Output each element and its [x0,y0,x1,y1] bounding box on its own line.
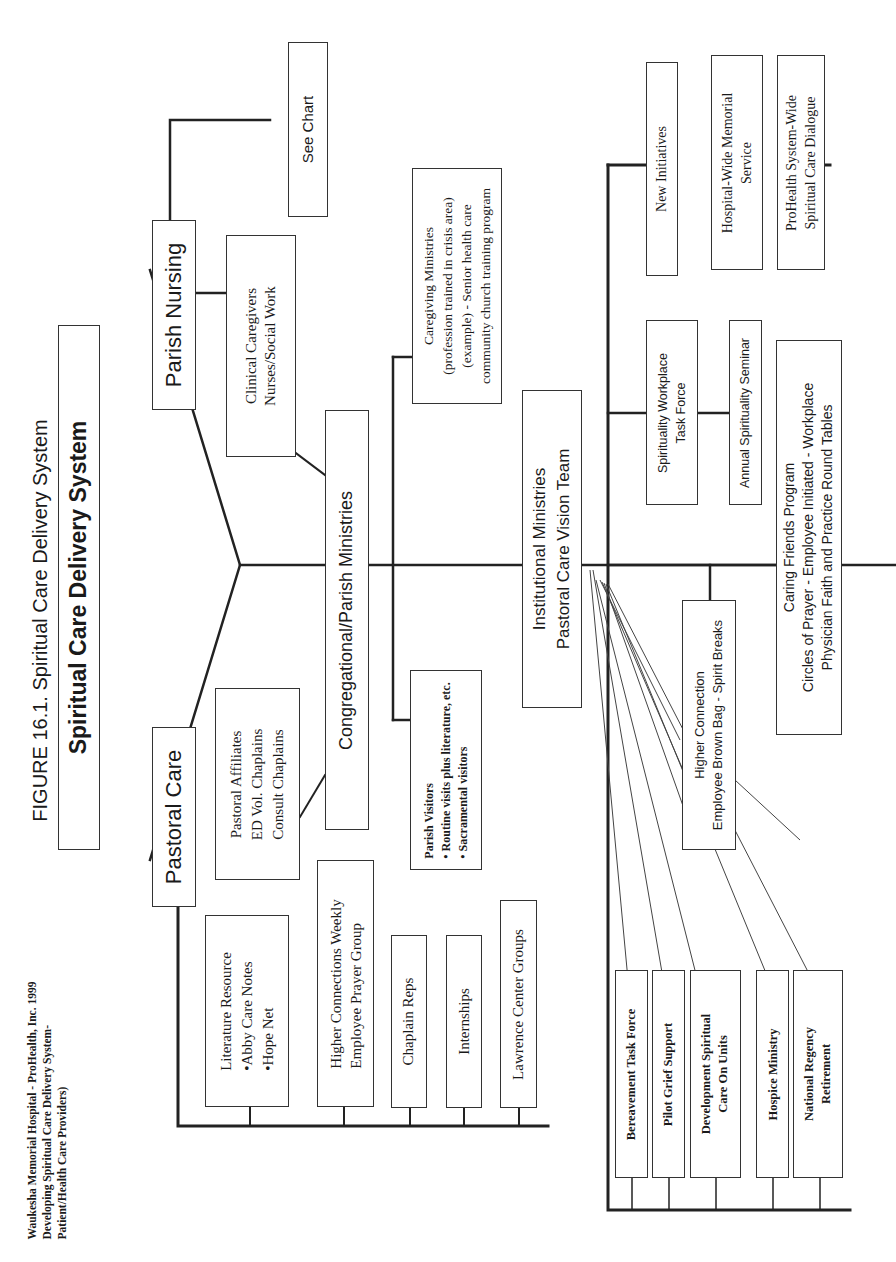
internships-node[interactable]: Internships [446,935,482,1108]
node-text-line: Pastoral Care Vision Team [552,449,576,650]
caring-friends-node[interactable]: Caring Friends Program Circles of Prayer… [776,340,842,735]
chaplain-reps-node[interactable]: Chaplain Reps [391,935,427,1108]
node-text-line: ED Vol. Chaplains [247,728,268,840]
pilot-grief-support-node[interactable]: Pilot Grief Support [652,970,685,1178]
node-text-line: Pilot Grief Support [661,1022,676,1125]
node-text-line: (example) - Senior health care [457,188,476,384]
parish-nursing-node[interactable]: Parish Nursing [152,220,196,410]
node-text-line: ProHealth System-Wide [782,95,801,231]
memorial-service-node[interactable]: Hospital-Wide Memorial Service [711,55,763,270]
node-text-line: Higher Connections Weekly [326,899,346,1068]
node-text-line: Employee Prayer Group [346,899,366,1068]
node-text-line: Development Spiritual [699,1014,716,1134]
annual-seminar-node[interactable]: Annual Spirituality Seminar [729,320,762,505]
root-label: Spiritual Care Delivery System [66,421,93,755]
system-wide-dialogue-node[interactable]: ProHealth System-Wide Spiritual Care Dia… [777,55,825,270]
pastoral-care-node[interactable]: Pastoral Care [152,727,196,907]
node-text-line: Caring Friends Program [781,383,800,692]
node-text-line: National Regency [801,1027,818,1121]
see-chart-label: See Chart [300,96,317,164]
node-text-line: Hospital-Wide Memorial [718,92,737,233]
node-text-line: Task Force [672,353,690,473]
org-chart: FIGURE 16.1. Spiritual Care Delivery Sys… [0,0,896,1262]
lawrence-center-groups-node[interactable]: Lawrence Center Groups [500,900,537,1108]
node-text-line: Literature Resource [216,952,237,1071]
figure-title-text: FIGURE 16.1. Spiritual Care Delivery Sys… [29,419,52,821]
parish-nursing-label: Parish Nursing [161,243,187,387]
node-text-line: Institutional Ministries [528,449,552,650]
clinical-caregivers-node[interactable]: Clinical Caregivers Nurses/Social Work [226,235,296,457]
node-text-line: Service [737,92,756,233]
caregiving-ministries-node[interactable]: Caregiving Ministries (profession traine… [412,168,502,404]
node-text-line: •Abby Care Notes [237,952,258,1071]
parish-visitors-node[interactable]: Parish Visitors • Routine visits plus li… [410,670,482,870]
node-text-line: Internships [456,988,473,1055]
pastoral-care-label: Pastoral Care [161,750,187,885]
source-note-line: Waukesha Memorial Hospital - ProHealth, … [26,981,41,1239]
node-text-line: •Hope Net [258,952,279,1071]
node-text-line: (profession trained in crisis area) [438,188,457,384]
higher-connections-weekly-node[interactable]: Higher Connections Weekly Employee Praye… [317,860,374,1107]
node-text-line: Pastoral Affiliates [226,728,247,840]
node-text-line: New Initiatives [654,126,670,212]
congregational-ministries-node[interactable]: Congregational/Parish Ministries [325,410,369,830]
node-text-line: Retirement [818,1027,835,1121]
node-text-line: Bereavement Task Force [624,1008,639,1139]
node-text-line: Circles of Prayer - Employee Initiated -… [800,383,819,692]
see-chart-node[interactable]: See Chart [288,42,328,217]
node-text-line: Annual Spirituality Seminar [739,337,753,487]
congregational-label: Congregational/Parish Ministries [337,490,358,749]
workplace-task-force-node[interactable]: Spirituality Workplace Task Force [646,320,698,505]
node-text-line: • Sacramental visitors [455,682,472,858]
root-node[interactable]: Spiritual Care Delivery System [58,325,100,850]
hospice-ministry-node[interactable]: Hospice Ministry [756,970,789,1178]
higher-connection-node[interactable]: Higher Connection Employee Brown Bag - S… [682,600,736,850]
node-text-line: Hospice Ministry [765,1028,780,1120]
bereavement-task-force-node[interactable]: Bereavement Task Force [615,970,648,1178]
node-text-line: Nurses/Social Work [261,286,280,406]
new-initiatives-node[interactable]: New Initiatives [646,62,678,276]
node-text-line: community church training program [476,188,495,384]
pastoral-affiliates-node[interactable]: Pastoral Affiliates ED Vol. Chaplains Co… [215,688,300,880]
development-spiritual-care-node[interactable]: Development Spiritual Care On Units [690,970,741,1178]
node-text-line: Spirituality Workplace [654,353,672,473]
source-note-line: Developing Spiritual Care Delivery Syste… [41,981,56,1239]
node-text-line: Chaplain Reps [401,978,418,1066]
node-text-line: Consult Chaplains [268,728,289,840]
node-text-line: Care On Units [716,1014,733,1134]
source-note: Waukesha Memorial Hospital - ProHealth, … [8,960,88,1260]
source-note-line: Patient/Health Care Providers) [56,981,71,1239]
node-text-line: • Routine visits plus literature, etc. [438,682,455,858]
node-text-line: Employee Brown Bag - Spirit Breaks [709,620,727,830]
national-regency-node[interactable]: National Regency Retirement [793,970,843,1178]
node-text-line: Spiritual Care Dialogue [801,95,820,231]
node-text-line: Parish Visitors [421,682,438,858]
node-text-line: Physician Faith and Practice Round Table… [819,383,838,692]
node-text-line: Caregiving Ministries [419,188,438,384]
institutional-ministries-node[interactable]: Institutional Ministries Pastoral Care V… [522,390,582,708]
node-text-line: Higher Connection [691,620,709,830]
literature-resource-node[interactable]: Literature Resource •Abby Care Notes •Ho… [205,915,289,1107]
node-text-line: Clinical Caregivers [242,286,261,406]
node-text-line: Lawrence Center Groups [510,929,527,1080]
